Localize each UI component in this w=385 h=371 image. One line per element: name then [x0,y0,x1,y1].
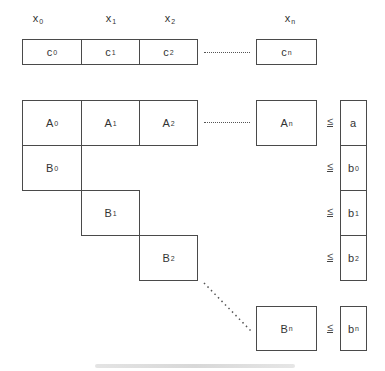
cell-sub: 1 [355,210,359,217]
rhs-b2: b2 [340,235,367,281]
le-glyph: ≤ [327,116,333,127]
rhs-a: a [340,100,367,146]
le-glyph: ≤ [327,161,333,172]
le-symbol-b0: ≤ [327,160,333,172]
le-symbol-b2: ≤ [327,250,333,262]
cell-sub: 2 [355,255,359,262]
le-glyph: ≤ [327,322,333,333]
cell-sub: 0 [355,165,359,172]
cell-base: a [350,117,356,129]
cell-base: b [348,252,354,264]
cell-sub: n [289,325,293,332]
figure-caption-illegible [95,364,295,368]
cell-base: b [348,162,354,174]
cell-base: b [348,207,354,219]
rhs-b1: b1 [340,190,367,236]
block-Bn: Bn [256,306,317,351]
diagonal-dots [204,283,252,332]
cell-sub: n [355,325,359,332]
rhs-bn: bn [340,306,367,351]
le-symbol-b1: ≤ [327,205,333,217]
le-glyph: ≤ [327,251,333,262]
cell-base: B [280,323,287,335]
cell-base: b [348,323,354,335]
rhs-b0: b0 [340,145,367,191]
le-symbol-bn: ≤ [327,321,333,333]
le-glyph: ≤ [327,206,333,217]
diagonal-ellipsis [0,0,385,371]
le-symbol-a: ≤ [327,115,333,127]
